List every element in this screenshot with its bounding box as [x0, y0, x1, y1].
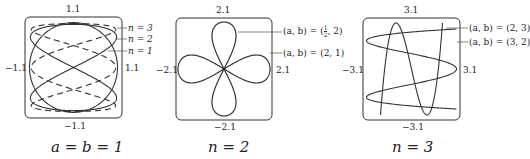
- panel1-legend-n3: n = 3: [128, 23, 153, 33]
- panel2-tick-left: −2.1: [156, 65, 178, 75]
- panel1-tick-top: 1.1: [66, 4, 80, 14]
- panel2-tick-top: 2.1: [216, 5, 230, 15]
- panel1-tick-right: 1.1: [125, 63, 139, 73]
- panel3-tick-left: −3.1: [342, 65, 364, 75]
- panel2-caption: n = 2: [208, 138, 249, 156]
- panel2-tick-bottom: −2.1: [214, 122, 236, 132]
- panel1-tick-left: −1.1: [5, 63, 27, 73]
- legend-prefix: (a, b) = (: [283, 26, 324, 36]
- panel1-legend-n1: n = 1: [128, 46, 153, 56]
- panel3-legend-3-2: (a, b) = (3, 2): [469, 37, 530, 47]
- panel3-tick-bottom: −3.1: [402, 122, 424, 132]
- curve-2-3: [381, 23, 443, 115]
- panel2-legend-2-1: (a, b) = (2, 1): [283, 48, 344, 58]
- panel3-caption: n = 3: [392, 138, 433, 156]
- figure-canvas: [0, 0, 530, 159]
- panel1-caption: a = b = 1: [51, 138, 123, 156]
- panel2-tick-right: 2.1: [276, 65, 290, 75]
- panel3-tick-right: 3.1: [463, 65, 477, 75]
- panel1-tick-bottom: −1.1: [64, 121, 86, 131]
- panel3-legend-2-3: (a, b) = (2, 3): [469, 23, 530, 33]
- curve-n2: [30, 24, 116, 110]
- legend-suffix: , 2): [327, 26, 342, 36]
- panel2-legend-half-2: (a, b) = (12, 2): [283, 25, 342, 38]
- panel1-legend-n2: n = 2: [128, 34, 153, 44]
- curve-2-1: [178, 55, 270, 83]
- panel3-tick-top: 3.1: [404, 5, 418, 15]
